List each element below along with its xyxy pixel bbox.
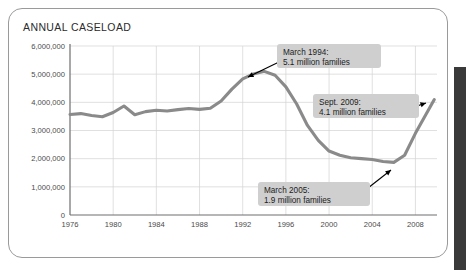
annual-caseload-line-chart: 6,000,0005,000,0004,000,0003,000,0002,00… — [0, 0, 466, 270]
x-tick-label: 1980 — [105, 220, 122, 229]
annotation-trough-2005: March 2005:1.9 million families — [258, 170, 391, 206]
x-tick-label: 1992 — [234, 220, 251, 229]
vertical-scrollbar-track[interactable] — [454, 0, 466, 270]
y-tick-label: 5,000,000 — [31, 70, 65, 79]
y-tick-label: 0 — [61, 211, 65, 220]
x-tick-label: 1976 — [62, 220, 79, 229]
annotation-line-2: 1.9 million families — [264, 196, 331, 205]
x-tick-labels-group: 197619801984198819921996200020042008 — [62, 220, 424, 229]
annotation-arrowhead — [420, 102, 426, 107]
annotations-group: March 1994:5.1 million familiesSept. 200… — [248, 44, 426, 206]
y-tick-label: 6,000,000 — [31, 42, 65, 51]
x-tick-label: 2004 — [364, 220, 381, 229]
y-tick-label: 3,000,000 — [31, 126, 65, 135]
x-tick-label: 1988 — [191, 220, 208, 229]
y-tick-labels-group: 6,000,0005,000,0004,000,0003,000,0002,00… — [31, 42, 65, 220]
x-tick-label: 1996 — [277, 220, 294, 229]
y-tick-label: 2,000,000 — [31, 154, 65, 163]
y-tick-label: 4,000,000 — [31, 98, 65, 107]
annotation-sept-2009: Sept. 2009:4.1 million families — [313, 94, 426, 118]
axes-group — [70, 44, 437, 215]
x-tick-label: 2000 — [321, 220, 338, 229]
gridlines-group — [70, 46, 437, 215]
chart-plot-area: 6,000,0005,000,0004,000,0003,000,0002,00… — [0, 0, 466, 270]
annotation-line-1: Sept. 2009: — [319, 98, 361, 107]
annotation-line-1: March 2005: — [264, 186, 310, 195]
annotation-line-2: 5.1 million families — [283, 58, 350, 67]
x-tick-label: 1984 — [148, 220, 165, 229]
y-tick-label: 1,000,000 — [31, 183, 65, 192]
x-tick-label: 2008 — [407, 220, 424, 229]
annotation-line-2: 4.1 million families — [319, 108, 386, 117]
vertical-scrollbar-thumb[interactable] — [454, 67, 466, 270]
annotation-line-1: March 1994: — [283, 48, 329, 57]
